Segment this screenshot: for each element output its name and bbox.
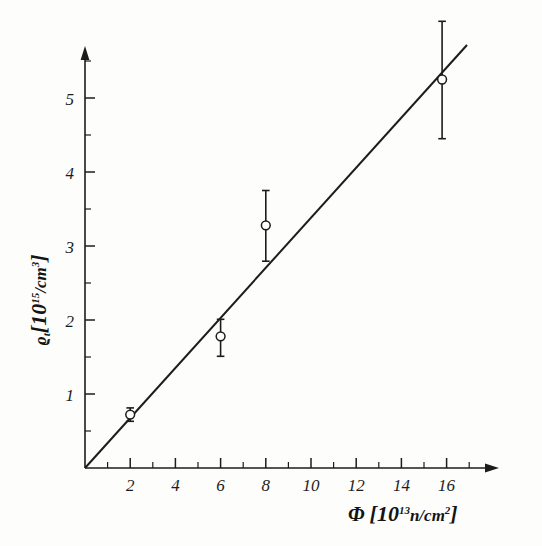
chart-svg: 1 2 3 4 5 2 4 6 8 10 12 14 16 ϱt[1015/cm… [0,0,542,546]
y-axis-units-close: ] [26,254,51,263]
x-tick-label-2: 2 [126,476,135,495]
x-tick-labels: 2 4 6 8 10 12 14 16 [126,476,456,495]
y-axis-exponent: 15 [29,292,41,304]
y-tick-label-4: 4 [66,164,75,183]
figure-canvas: 1 2 3 4 5 2 4 6 8 10 12 14 16 ϱt[1015/cm… [0,0,542,546]
x-minor-ticks [108,462,470,468]
data-point-4[interactable] [438,21,447,138]
y-tick-label-2: 2 [66,312,75,331]
y-axis-title: ϱt[1015/cm3] [26,254,52,345]
y-axis-units-tail: /cm [31,267,50,295]
x-axis-units-open: [10 [370,501,399,526]
x-axis-units-tail: n/cm [410,506,445,525]
data-point-3[interactable] [261,191,270,262]
x-axis-units-close: ] [448,501,457,526]
y-major-ticks [85,98,95,394]
x-tick-label-14: 14 [393,476,411,495]
x-axis-symbol: Φ [348,502,365,526]
y-axis-symbol: ϱ [31,336,50,345]
x-tick-label-10: 10 [303,476,321,495]
x-tick-label-6: 6 [216,476,225,495]
x-tick-label-4: 4 [171,476,180,495]
x-tick-label-16: 16 [438,476,456,495]
data-point-2[interactable] [216,319,225,356]
axes-group [81,46,499,472]
fit-line [85,45,467,468]
data-point-1[interactable] [126,408,135,421]
y-tick-label-3: 3 [65,238,75,257]
svg-text:Φ[1013n/cm2]: Φ[1013n/cm2] [348,501,458,526]
marker-open-circle-2[interactable] [216,332,225,341]
marker-open-circle-4[interactable] [438,75,447,84]
x-axis-title: Φ[1013n/cm2] [348,501,458,526]
x-tick-label-8: 8 [262,476,271,495]
y-tick-labels: 1 2 3 4 5 [65,90,75,405]
svg-text:ϱt[1015/cm3]: ϱt[1015/cm3] [26,254,52,345]
x-tick-label-12: 12 [348,476,366,495]
y-tick-label-5: 5 [66,90,75,109]
y-tick-label-1: 1 [66,386,75,405]
y-axis-arrow-icon [81,46,90,60]
y-axis-units-open: [10 [26,304,51,333]
x-axis-exponent: 13 [399,504,411,516]
x-axis-arrow-icon [485,464,499,473]
marker-open-circle-3[interactable] [261,221,270,230]
marker-open-circle-1[interactable] [126,410,135,419]
